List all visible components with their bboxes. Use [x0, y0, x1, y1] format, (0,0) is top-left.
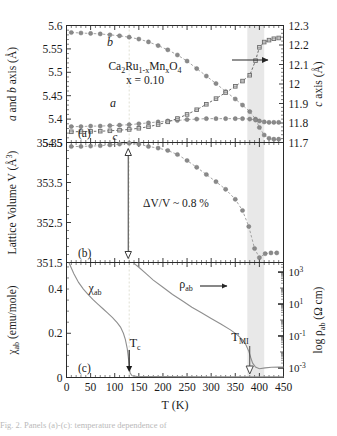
series-b-marker — [204, 74, 208, 78]
series-a-marker — [98, 124, 102, 128]
series-volume-marker — [247, 224, 251, 228]
series-b-marker — [117, 34, 121, 38]
delta-v-label: ΔV/V ~ 0.8 % — [143, 197, 209, 209]
three-panel-chart: 050100150200250300350400450T (K)5.355.45… — [0, 0, 337, 436]
series-volume-marker — [127, 141, 131, 145]
series-volume-marker — [263, 252, 267, 256]
curve-label-c: c — [113, 130, 118, 142]
tmi-label: TMI — [231, 330, 249, 346]
series-b-marker — [272, 137, 276, 141]
series-a-marker — [248, 117, 252, 121]
x-tick-label: 350 — [227, 381, 245, 393]
y-tick-label: 5.55 — [42, 43, 62, 55]
x-tick-label: 200 — [154, 381, 172, 393]
series-volume-marker — [185, 158, 189, 162]
y-tick-label: 12 — [289, 78, 301, 90]
x-axis-label: T (K) — [162, 398, 189, 412]
series-volume-marker — [89, 144, 93, 148]
shaded-transition-band — [247, 26, 264, 378]
series-a-marker — [224, 117, 228, 121]
y-axis-label-b: Lattice Volume V (Å3) — [5, 150, 19, 254]
series-a-marker — [127, 123, 131, 127]
series-b-marker — [262, 133, 266, 137]
series-volume-marker — [269, 251, 273, 255]
series-a-marker — [253, 118, 257, 122]
y-axis-label-c-left: χab (emu/mole) — [6, 285, 21, 355]
series-b-marker — [175, 53, 179, 57]
series-volume-marker — [108, 143, 112, 147]
series-volume-marker — [257, 256, 261, 260]
series-a-marker — [272, 120, 276, 124]
series-a-marker — [277, 120, 281, 124]
y-tick-label: 0 — [57, 372, 63, 384]
panel-a-tag: (a) — [78, 127, 91, 140]
panel-c-tag: (c) — [78, 362, 91, 375]
y-tick-label: 352.5 — [37, 217, 63, 229]
series-b-marker — [248, 110, 252, 114]
series-b-marker — [233, 97, 237, 101]
x-tick-label: 0 — [64, 381, 70, 393]
figure-caption: Fig. 2. Panels (a)-(c): temperature depe… — [0, 420, 337, 436]
series-volume-marker — [240, 208, 244, 212]
series-a-marker — [214, 117, 218, 121]
series-volume-marker — [224, 187, 228, 191]
series-b-marker — [137, 37, 141, 41]
x-tick-label: 150 — [130, 381, 148, 393]
y-tick-label: 5.4 — [48, 113, 63, 125]
y-tick-label: 10-3 — [289, 361, 306, 374]
series-volume-marker — [69, 144, 73, 148]
series-b-marker — [127, 35, 131, 39]
x-tick-label: 50 — [85, 381, 97, 393]
x-tick-label: 250 — [178, 381, 196, 393]
series-b-marker — [146, 40, 150, 44]
y-tick-label: 12.2 — [289, 39, 309, 51]
y-tick-label: 11.8 — [289, 117, 309, 129]
figure-root: 050100150200250300350400450T (K)5.355.45… — [0, 0, 337, 436]
series-volume-marker — [195, 165, 199, 169]
y-tick-label: 5.5 — [48, 66, 63, 78]
series-volume-marker — [146, 144, 150, 148]
series-a-marker — [185, 117, 189, 121]
tc-arrow-head — [126, 366, 132, 372]
series-a-marker — [117, 123, 121, 127]
panel-b-tag: (b) — [78, 247, 92, 260]
series-a-marker — [146, 121, 150, 125]
y-tick-label: 11.7 — [289, 137, 309, 149]
y-tick-label: 0.2 — [48, 327, 63, 339]
series-volume-marker — [204, 172, 208, 176]
series-volume-marker — [79, 144, 83, 148]
y-tick-label: 103 — [289, 265, 304, 278]
delta-v-arrow-head-up — [125, 149, 131, 156]
delta-v-arrow-head-down — [125, 252, 131, 259]
series-b-marker — [240, 103, 244, 107]
curve-label-a: a — [110, 96, 116, 110]
x-tick-label: 100 — [106, 381, 124, 393]
series-volume-marker — [156, 146, 160, 150]
series-volume-marker — [275, 251, 279, 255]
series-a-marker — [262, 120, 266, 124]
series-b-marker — [267, 136, 271, 140]
series-a-marker — [233, 117, 237, 121]
series-a-marker — [204, 117, 208, 121]
y-tick-label: 12.1 — [289, 59, 309, 71]
series-a-marker — [267, 120, 271, 124]
series-b-marker — [98, 32, 102, 36]
series-b-marker — [195, 66, 199, 70]
curve-label-b: b — [107, 35, 113, 49]
series-a-marker — [108, 124, 112, 128]
y-tick-label: 353.5 — [37, 177, 63, 189]
y-tick-label: 0.4 — [48, 283, 63, 295]
x-tick-label: 400 — [251, 381, 269, 393]
x-tick-label: 300 — [203, 381, 221, 393]
series-volume-marker — [137, 142, 141, 146]
series-volume-marker — [233, 197, 237, 201]
series-volume-marker — [175, 152, 179, 156]
y-tick-label: 11.9 — [289, 98, 309, 110]
sample-composition-label: x = 0.10 — [126, 74, 164, 86]
y-tick-label: 10-1 — [289, 329, 306, 342]
series-b-marker — [166, 48, 170, 52]
series-volume-marker — [252, 246, 256, 250]
series-volume-marker — [117, 142, 121, 146]
y-tick-label: 5.45 — [42, 90, 62, 102]
series-a-marker — [69, 124, 73, 128]
